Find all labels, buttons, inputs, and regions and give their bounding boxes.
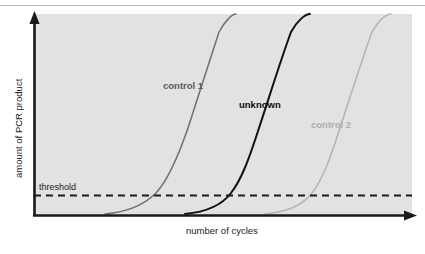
threshold-label: threshold — [39, 183, 76, 192]
series-label-unknown: unknown — [239, 100, 281, 110]
x-axis-label: number of cycles — [186, 226, 258, 236]
plot-canvas — [0, 0, 425, 254]
series-label-control-1: control 1 — [163, 81, 203, 91]
y-axis-label: amount of PCR product — [14, 79, 24, 178]
pcr-amplification-figure: amount of PCR product number of cycles t… — [0, 0, 425, 254]
series-label-control-2: control 2 — [311, 120, 351, 130]
plot-area-background — [34, 14, 412, 216]
